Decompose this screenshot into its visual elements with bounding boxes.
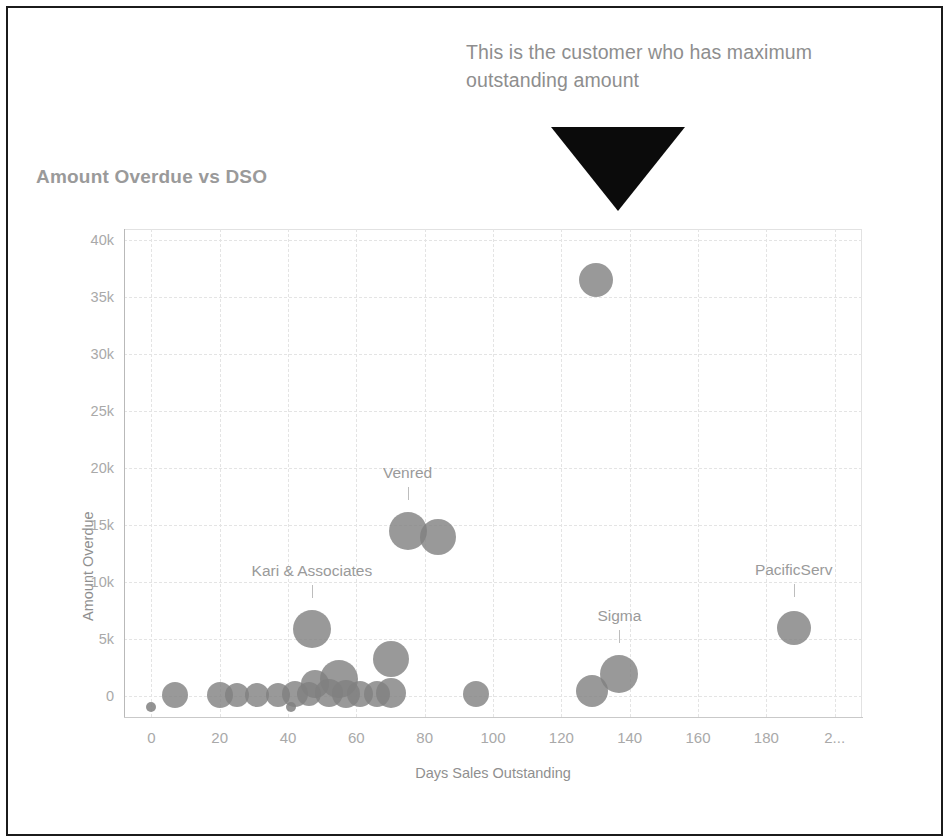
point-label: Venred (383, 464, 432, 482)
y-axis-line (124, 229, 125, 718)
scatter-point[interactable] (576, 675, 608, 707)
slide-page: This is the customer who has maximum out… (0, 0, 945, 838)
y-tick-label: 0 (106, 688, 114, 704)
x-tick-label: 2... (824, 729, 845, 746)
x-axis-label: Days Sales Outstanding (124, 765, 862, 781)
x-tick-label: 0 (147, 729, 155, 746)
y-tick-label: 20k (91, 460, 114, 476)
x-tick-label: 120 (549, 729, 574, 746)
plot-markers (124, 229, 862, 717)
annotation-text: This is the customer who has maximum out… (466, 38, 886, 94)
point-label-leader (312, 585, 313, 598)
point-label-leader (794, 584, 795, 597)
x-tick-label: 180 (754, 729, 779, 746)
y-tick-label: 15k (91, 517, 114, 533)
scatter-point[interactable] (420, 519, 456, 555)
x-tick-label: 160 (685, 729, 710, 746)
y-tick-label: 35k (91, 289, 114, 305)
point-label: Sigma (597, 607, 641, 625)
y-tick-label: 30k (91, 346, 114, 362)
x-tick-label: 80 (416, 729, 433, 746)
scatter-point[interactable] (293, 610, 331, 648)
below-axis-point[interactable] (286, 702, 296, 712)
x-tick-label: 20 (211, 729, 228, 746)
y-tick-label: 10k (91, 574, 114, 590)
x-tick-label: 140 (617, 729, 642, 746)
y-axis-ticks: 05k10k15k20k25k30k35k40k (44, 229, 114, 717)
scatter-point[interactable] (162, 682, 188, 708)
point-label-leader (408, 487, 409, 500)
scatter-point[interactable] (376, 678, 406, 708)
below-axis-point[interactable] (146, 702, 156, 712)
down-triangle-arrow-icon (551, 127, 685, 211)
y-tick-label: 40k (91, 232, 114, 248)
scatter-plot-area: VenredKari & AssociatesPacificServSigma … (124, 229, 862, 717)
point-label: Kari & Associates (252, 562, 373, 580)
y-tick-label: 5k (99, 631, 114, 647)
chart-title: Amount Overdue vs DSO (36, 166, 267, 188)
scatter-point[interactable] (579, 263, 613, 297)
x-tick-label: 40 (280, 729, 297, 746)
scatter-point[interactable] (777, 611, 811, 645)
x-axis-ticks: 0204060801001201401601802... (124, 729, 862, 755)
point-label: PacificServ (755, 561, 833, 579)
scatter-point[interactable] (463, 681, 489, 707)
x-axis-line (124, 717, 863, 718)
y-tick-label: 25k (91, 403, 114, 419)
x-tick-label: 60 (348, 729, 365, 746)
x-tick-label: 100 (480, 729, 505, 746)
scatter-point[interactable] (373, 641, 409, 677)
point-label-leader (619, 630, 620, 643)
